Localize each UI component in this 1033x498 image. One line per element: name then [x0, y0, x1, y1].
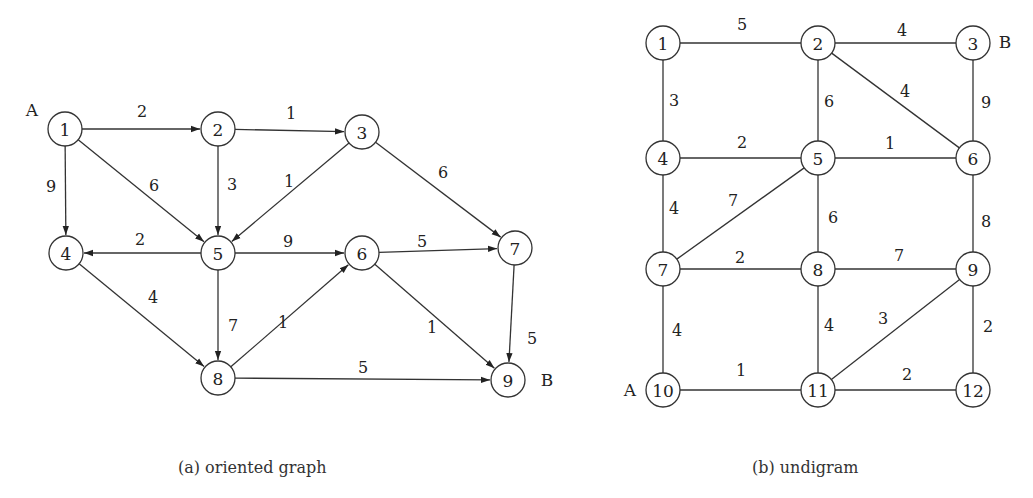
- node-3: 3: [956, 26, 990, 60]
- node-label: 1: [658, 34, 669, 54]
- node-label: 7: [658, 260, 669, 280]
- edge-weight-label: 9: [283, 232, 293, 251]
- node-label: 3: [968, 34, 979, 54]
- node-label: 5: [213, 244, 224, 264]
- edge-4-8: 4: [79, 264, 204, 367]
- edge-weight-label: 9: [981, 93, 991, 112]
- edge-weight-label: 2: [737, 133, 747, 152]
- edge-weight-label: 5: [527, 329, 537, 348]
- edge-weight-label: 6: [824, 92, 834, 111]
- oriented-graph: 2196316295471155123456789AB: [25, 100, 553, 397]
- arrow-line: [375, 264, 495, 368]
- arrow-line: [78, 140, 204, 242]
- edge-weight-label: 6: [149, 176, 159, 195]
- node-label: 9: [503, 371, 514, 391]
- node-label: 3: [357, 123, 368, 143]
- edge-11-9: 3: [831, 279, 959, 379]
- edge-8-9: 5: [235, 358, 490, 380]
- edge-weight-label: 2: [137, 102, 147, 121]
- arrow-line: [376, 142, 501, 237]
- edge-11-12: 2: [835, 365, 956, 391]
- edge-weight-label: 3: [227, 175, 237, 194]
- edge-1-4: 9: [46, 146, 66, 235]
- edge-weight-label: 4: [824, 316, 834, 335]
- edge-weight-label: 1: [885, 134, 895, 153]
- edge-weight-label: 4: [148, 288, 158, 307]
- node-5: 5: [801, 141, 835, 175]
- node-label: 2: [813, 34, 824, 54]
- edge-weight-label: 1: [286, 104, 296, 123]
- edge-3-6: 9: [973, 60, 991, 141]
- node-9: 9: [491, 363, 525, 397]
- node-2: 2: [801, 26, 835, 60]
- edge-weight-label: 7: [728, 191, 738, 210]
- node-label: 7: [510, 239, 521, 259]
- edge-2-6: 4: [832, 53, 960, 148]
- graph-canvas: 2196316295471155123456789AB 543649214768…: [0, 0, 1033, 498]
- node-9: 9: [956, 252, 990, 286]
- edge-8-9: 7: [835, 246, 956, 270]
- node-10: 10: [646, 373, 680, 407]
- node-label: 5: [813, 149, 824, 169]
- edge-8-6: 1: [231, 265, 349, 367]
- edge-5-7: 7: [677, 168, 804, 259]
- edge-9-12: 2: [973, 286, 993, 373]
- edge-1-2: 5: [680, 15, 801, 44]
- node-label: 11: [807, 381, 829, 401]
- caption-undigram: (b) undigram: [752, 458, 858, 477]
- edge-line: [677, 168, 804, 259]
- undirected-graph: 54364921476827443212123456789101112BA: [623, 15, 1011, 408]
- edge-line: [831, 279, 959, 379]
- node-label: 10: [652, 381, 674, 401]
- node-8: 8: [201, 361, 235, 395]
- edge-1-4: 3: [663, 60, 679, 141]
- edge-weight-label: 1: [427, 318, 437, 337]
- node-label: 9: [968, 260, 979, 280]
- edge-weight-label: 6: [828, 208, 838, 227]
- edge-weight-label: 2: [135, 230, 145, 249]
- edge-3-5: 1: [232, 143, 349, 241]
- node-12: 12: [956, 373, 990, 407]
- arrow-line: [232, 143, 349, 241]
- edge-5-8: 7: [218, 270, 238, 360]
- edge-6-9: 8: [973, 175, 991, 252]
- node-6: 6: [956, 141, 990, 175]
- arrow-line: [65, 146, 66, 235]
- edge-weight-label: 2: [902, 365, 912, 384]
- edge-weight-label: 5: [417, 232, 427, 251]
- edge-weight-label: 3: [878, 309, 888, 328]
- node-label: 8: [813, 260, 824, 280]
- edge-weight-label: 2: [983, 317, 993, 336]
- node-6: 6: [345, 236, 379, 270]
- arrow-line: [235, 129, 344, 131]
- edge-weight-label: 7: [228, 316, 238, 335]
- edge-4-7: 4: [663, 175, 679, 252]
- edge-weight-label: 7: [894, 246, 904, 265]
- source-tag: A: [623, 380, 637, 400]
- node-1: 1: [646, 26, 680, 60]
- node-label: 1: [60, 120, 71, 140]
- edge-5-6: 1: [835, 134, 956, 159]
- edge-weight-label: 1: [284, 172, 294, 191]
- edge-3-7: 6: [376, 142, 501, 237]
- node-7: 7: [646, 252, 680, 286]
- edge-10-11: 1: [680, 361, 801, 391]
- edge-weight-label: 9: [46, 177, 56, 196]
- arrow-line: [235, 378, 490, 380]
- node-label: 2: [213, 120, 224, 140]
- node-4: 4: [49, 236, 83, 270]
- edge-2-3: 1: [235, 104, 344, 132]
- edge-weight-label: 5: [737, 15, 747, 34]
- target-tag: B: [541, 370, 554, 390]
- edge-7-9: 5: [509, 265, 537, 362]
- arrow-line: [231, 265, 349, 367]
- edge-8-11: 4: [818, 286, 834, 373]
- node-label: 4: [658, 149, 669, 169]
- arrow-line: [79, 264, 204, 367]
- node-3: 3: [345, 115, 379, 149]
- edge-weight-label: 4: [897, 21, 907, 40]
- edge-1-2: 2: [82, 102, 200, 130]
- edge-5-4: 2: [84, 230, 201, 254]
- edge-weight-label: 6: [438, 163, 448, 182]
- edge-weight-label: 4: [669, 199, 679, 218]
